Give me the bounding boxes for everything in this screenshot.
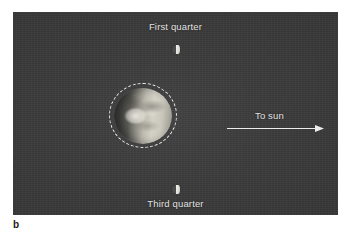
- moon-lit-limb: [176, 185, 180, 194]
- moon-lit-limb: [176, 45, 180, 54]
- first-quarter-label: First quarter: [149, 21, 202, 32]
- figure-caption-letter: b: [13, 220, 19, 230]
- earth-globe-icon: [114, 88, 172, 144]
- half-moon-first-quarter-icon: [172, 45, 180, 54]
- to-sun-arrow-icon: [227, 124, 324, 133]
- third-quarter-label: Third quarter: [147, 198, 203, 209]
- illustration-panel: First quarter Third quarter To sun: [13, 12, 338, 215]
- half-moon-third-quarter-icon: [172, 185, 180, 194]
- earth-limb-shading: [114, 88, 172, 144]
- figure-root: First quarter Third quarter To sun b: [0, 0, 350, 238]
- to-sun-label: To sun: [255, 110, 284, 121]
